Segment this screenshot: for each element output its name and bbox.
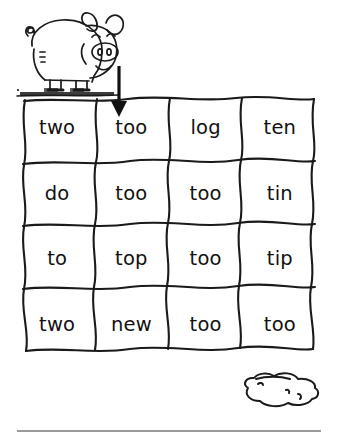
pig-tail-icon: [26, 27, 34, 36]
grid-cell-r3c2[interactable]: top: [94, 226, 168, 292]
grid-cell-r2c1[interactable]: do: [20, 161, 94, 227]
grid-cell-r2c4[interactable]: tin: [243, 161, 317, 227]
pig-nostril-right-icon: [107, 49, 111, 55]
grid-cell-r4c1[interactable]: two: [20, 292, 94, 358]
grid-cell-r1c1[interactable]: two: [20, 95, 94, 161]
grid-cell-r3c3[interactable]: too: [169, 226, 243, 292]
grid-cell-r4c2[interactable]: new: [94, 292, 168, 358]
pig-nostril-left-icon: [98, 49, 102, 55]
pig-snout-icon: [92, 43, 118, 61]
word-grid-cells: two too log ten do too too tin to top to…: [20, 95, 317, 357]
grid-cell-r2c3[interactable]: too: [169, 161, 243, 227]
pig-ear-left-icon: [82, 13, 97, 31]
grid-cell-r1c2[interactable]: too: [94, 95, 168, 161]
pig-eye-left-icon: [92, 35, 100, 37]
grid-cell-r2c2[interactable]: too: [94, 161, 168, 227]
grid-cell-r4c3[interactable]: too: [169, 292, 243, 358]
grid-cell-r1c4[interactable]: ten: [243, 95, 317, 161]
pig-ear-right-icon: [106, 15, 123, 34]
grid-cell-r1c3[interactable]: log: [169, 95, 243, 161]
mud-puddle-icon: [236, 368, 324, 410]
grid-cell-r4c4[interactable]: too: [243, 292, 317, 358]
worksheet-page: two too log ten do too too tin to top to…: [0, 0, 338, 440]
pig-eye-right-icon: [107, 34, 115, 36]
grid-cell-r3c1[interactable]: to: [20, 226, 94, 292]
footer-divider: [17, 430, 321, 432]
grid-cell-r3c4[interactable]: tip: [243, 226, 317, 292]
word-grid: two too log ten do too too tin to top to…: [20, 95, 317, 357]
